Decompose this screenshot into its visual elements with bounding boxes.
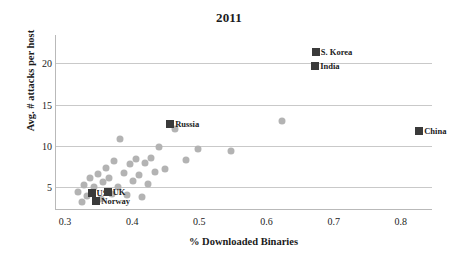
x-axis-ticks: 0.30.40.50.60.70.8 xyxy=(55,216,432,232)
data-point xyxy=(151,168,158,175)
data-point xyxy=(138,194,145,201)
y-tick-label: 10 xyxy=(28,141,52,152)
data-point xyxy=(278,118,285,125)
x-tick-label: 0.8 xyxy=(381,216,421,227)
gridline xyxy=(56,146,432,147)
data-point xyxy=(155,143,162,150)
data-point xyxy=(132,156,139,163)
data-point xyxy=(81,181,88,188)
data-point-label: China xyxy=(424,126,446,136)
scatter-plot-figure: 2011 Avg. # attacks per host 5101520 S. … xyxy=(0,0,458,280)
x-tick-label: 0.6 xyxy=(247,216,287,227)
gridline xyxy=(56,63,432,64)
data-point xyxy=(161,166,168,173)
data-point-labeled xyxy=(92,197,100,205)
x-axis-label: % Downloaded Binaries xyxy=(55,236,432,247)
data-point xyxy=(111,157,118,164)
data-point xyxy=(106,174,113,181)
data-point-label: Norway xyxy=(101,196,130,206)
data-point-labeled xyxy=(311,62,319,70)
data-point xyxy=(136,172,143,179)
y-axis-ticks: 5101520 xyxy=(24,35,52,210)
data-point-label: India xyxy=(320,61,339,71)
data-point xyxy=(87,175,94,182)
data-point-labeled xyxy=(166,120,174,128)
data-point-label: Russia xyxy=(175,119,199,129)
y-tick-label: 20 xyxy=(28,58,52,69)
data-point xyxy=(144,181,151,188)
data-point xyxy=(120,169,127,176)
data-point xyxy=(117,135,124,142)
y-tick-label: 5 xyxy=(28,182,52,193)
data-point xyxy=(75,189,82,196)
data-point xyxy=(78,198,85,205)
plot-area: S. KoreaIndiaChinaRussiaUSUKNorway xyxy=(55,35,432,210)
gridline xyxy=(56,105,432,106)
data-point xyxy=(195,145,202,152)
data-point xyxy=(100,179,107,186)
chart-title: 2011 xyxy=(0,10,458,26)
x-tick-label: 0.3 xyxy=(45,216,85,227)
y-tick-label: 15 xyxy=(28,99,52,110)
data-point xyxy=(142,160,149,167)
data-point-labeled xyxy=(415,127,423,135)
data-point xyxy=(129,177,136,184)
data-point-labeled xyxy=(104,188,112,196)
data-point xyxy=(183,157,190,164)
x-tick-label: 0.4 xyxy=(112,216,152,227)
x-tick-label: 0.7 xyxy=(314,216,354,227)
x-tick-label: 0.5 xyxy=(179,216,219,227)
data-point xyxy=(126,161,133,168)
data-point xyxy=(227,148,234,155)
data-point xyxy=(148,154,155,161)
data-point xyxy=(94,171,101,178)
data-point xyxy=(102,164,109,171)
data-point-labeled xyxy=(312,48,320,56)
data-point-label: S. Korea xyxy=(321,47,352,57)
